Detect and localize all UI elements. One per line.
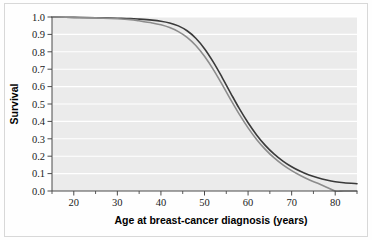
y-tick-label: 0.8: [32, 47, 45, 58]
y-tick-label: 0.0: [32, 186, 45, 197]
y-axis-ticks: [48, 17, 53, 191]
x-tick-label: 30: [112, 197, 123, 208]
y-tick-label: 1.0: [32, 12, 45, 23]
y-tick-label: 0.9: [32, 29, 45, 40]
y-tick-label: 0.1: [32, 168, 45, 179]
y-tick-label: 0.7: [32, 64, 45, 75]
x-tick-label: 20: [69, 197, 80, 208]
y-tick-label: 0.2: [32, 151, 45, 162]
x-tick-label: 80: [330, 197, 341, 208]
y-tick-label: 0.6: [32, 81, 45, 92]
y-tick-label: 0.5: [32, 99, 45, 110]
x-tick-label: 70: [286, 197, 297, 208]
x-axis-ticks: [52, 191, 357, 196]
x-tick-label: 60: [243, 197, 254, 208]
y-tick-label: 0.3: [32, 134, 45, 145]
x-tick-label: 50: [199, 197, 210, 208]
figure-container: 20304050607080 0.00.10.20.30.40.50.60.70…: [0, 0, 372, 240]
x-axis-tick-labels: 20304050607080: [69, 197, 341, 208]
x-tick-label: 40: [156, 197, 167, 208]
x-axis-title: Age at breast-cancer diagnosis (years): [114, 214, 307, 226]
y-axis-title: Survival: [8, 83, 20, 124]
y-tick-label: 0.4: [32, 116, 46, 127]
y-axis-tick-labels: 0.00.10.20.30.40.50.60.70.80.91.0: [32, 12, 46, 197]
survival-curve-chart: 20304050607080 0.00.10.20.30.40.50.60.70…: [0, 0, 372, 240]
